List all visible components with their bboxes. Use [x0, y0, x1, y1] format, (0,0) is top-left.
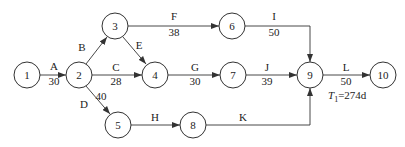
activity-A-duration: 30	[49, 75, 61, 87]
node-4: 4	[142, 62, 168, 88]
node-1: 1	[14, 62, 40, 88]
node-7: 7	[220, 62, 246, 88]
activity-L-duration: 50	[341, 75, 353, 87]
activity-I-duration: 50	[269, 26, 281, 38]
activity-A-name: A	[50, 60, 58, 72]
activity-L-name: L	[343, 61, 350, 73]
node-label: 2	[76, 69, 82, 81]
activity-G-duration: 30	[190, 75, 202, 87]
node-3: 3	[102, 13, 128, 39]
activity-I-name: I	[272, 10, 276, 22]
node-label: 10	[378, 69, 390, 81]
node-9: 9	[297, 62, 323, 88]
node-label: 9	[307, 69, 313, 81]
node-label: 5	[115, 119, 121, 131]
node-label: 6	[229, 20, 235, 32]
activity-B-name: B	[78, 41, 85, 53]
node-label: 7	[230, 69, 236, 81]
activity-G-name: G	[191, 61, 199, 73]
activity-J-duration: 39	[262, 75, 274, 87]
activity-E-name: E	[136, 39, 143, 51]
activity-F-duration: 38	[169, 26, 181, 38]
total-duration-annotation: T1=274d	[328, 89, 367, 104]
activity-K-name: K	[239, 111, 247, 123]
node-label: 8	[190, 119, 196, 131]
activity-D-duration: 40	[96, 90, 108, 102]
edge-K	[206, 88, 310, 125]
node-2: 2	[66, 62, 92, 88]
network-diagram: 1 2 3 4 5 6 7 8 9 10 A 30 B C 28 D 40 E …	[0, 0, 405, 147]
edge-B	[86, 37, 107, 64]
activity-J-name: J	[265, 61, 270, 73]
node-label: 4	[152, 69, 158, 81]
node-label: 3	[112, 20, 118, 32]
edge-E	[123, 37, 146, 64]
activity-H-name: H	[151, 111, 159, 123]
node-6: 6	[219, 13, 245, 39]
activity-C-name: C	[112, 61, 119, 73]
activity-D-name: D	[80, 98, 88, 110]
node-8: 8	[180, 112, 206, 138]
node-10: 10	[370, 62, 396, 88]
annotation-value: =274d	[338, 89, 367, 101]
activity-C-duration: 28	[111, 75, 123, 87]
activity-F-name: F	[171, 10, 177, 22]
node-5: 5	[105, 112, 131, 138]
node-label: 1	[24, 69, 30, 81]
